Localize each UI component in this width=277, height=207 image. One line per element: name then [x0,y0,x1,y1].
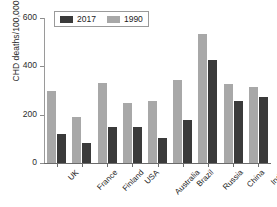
bar-2017-france[interactable] [82,143,91,163]
y-tick-0: 0 [40,163,44,164]
bar-group-uk [47,18,66,163]
bar-1990-russia[interactable] [198,34,207,163]
x-label-uk: UK [66,168,80,182]
x-tick-russia [208,163,209,167]
x-label-france: France [95,168,119,192]
bar-1990-usa[interactable] [123,103,132,163]
x-tick-finland [107,163,108,167]
x-tick-usa [132,163,133,167]
bar-2017-finland[interactable] [108,127,117,163]
bar-2017-australia[interactable] [158,138,167,163]
chd-deaths-bar-chart: CHD deaths/100,000 2017 1990 0200400600 … [0,0,277,207]
x-tick-australia [158,163,159,167]
bar-group-russia [198,18,217,163]
bar-1990-uk[interactable] [47,91,56,163]
bar-group-finland [98,18,117,163]
y-axis-title: CHD deaths/100,000 [11,0,21,101]
x-tick-china [233,163,234,167]
y-tick-label-0: 0 [32,157,37,167]
bar-1990-china[interactable] [224,84,233,163]
plot-area: 0200400600 [44,18,271,163]
y-tick-200: 200 [40,115,44,116]
x-label-usa: USA [143,168,161,186]
y-tick-400: 400 [40,66,44,67]
y-axis-line [44,18,45,163]
y-tick-600: 600 [40,18,44,19]
bar-group-china [224,18,243,163]
x-label-china: China [245,168,266,189]
x-tick-india [258,163,259,167]
bar-group-india [249,18,268,163]
bar-2017-russia[interactable] [208,60,217,163]
x-tick-uk [57,163,58,167]
bar-2017-uk[interactable] [57,134,66,163]
bar-1990-india[interactable] [249,87,258,163]
bar-group-brazil [173,18,192,163]
x-label-finland: Finland [121,168,146,193]
bar-2017-china[interactable] [234,101,243,163]
bar-group-usa [123,18,142,163]
bar-2017-brazil[interactable] [183,120,192,163]
x-tick-france [82,163,83,167]
x-label-india: India [269,168,277,187]
bar-group-australia [148,18,167,163]
bar-2017-usa[interactable] [133,127,142,163]
x-tick-brazil [183,163,184,167]
bar-2017-india[interactable] [259,97,268,163]
y-tick-label-600: 600 [23,12,37,22]
bar-1990-france[interactable] [72,117,81,163]
bar-1990-australia[interactable] [148,101,157,163]
bar-group-france [72,18,91,163]
bar-1990-brazil[interactable] [173,80,182,163]
y-tick-label-200: 200 [23,109,37,119]
x-label-russia: Russia [221,168,245,192]
bar-1990-finland[interactable] [98,83,107,163]
y-tick-label-400: 400 [23,60,37,70]
